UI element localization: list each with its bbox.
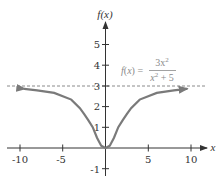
- x-axis-label: x: [210, 141, 216, 153]
- svg-text:f(x) =: f(x) =: [121, 65, 143, 77]
- x-tick-label: -10: [12, 154, 28, 165]
- function-graph: -10 -5 5 10 5 4 3 2 1 -1 f(x) x f(x) = 3…: [0, 0, 223, 180]
- y-tick-label: 4: [94, 60, 100, 71]
- svg-text:x2 + 5: x2 + 5: [149, 71, 174, 83]
- function-formula-label: f(x) = 3x2 x2 + 5: [121, 56, 176, 83]
- x-tick-label: -5: [56, 154, 66, 165]
- y-tick-label: -1: [90, 164, 100, 175]
- x-tick-label: 5: [145, 154, 151, 165]
- svg-text:3x2: 3x2: [155, 56, 169, 68]
- x-tick-label: 10: [185, 154, 198, 165]
- y-tick-label: 5: [94, 39, 100, 50]
- y-tick-label: 3: [94, 81, 100, 92]
- y-axis-label: f(x): [97, 8, 113, 21]
- y-tick-label: 2: [94, 101, 100, 112]
